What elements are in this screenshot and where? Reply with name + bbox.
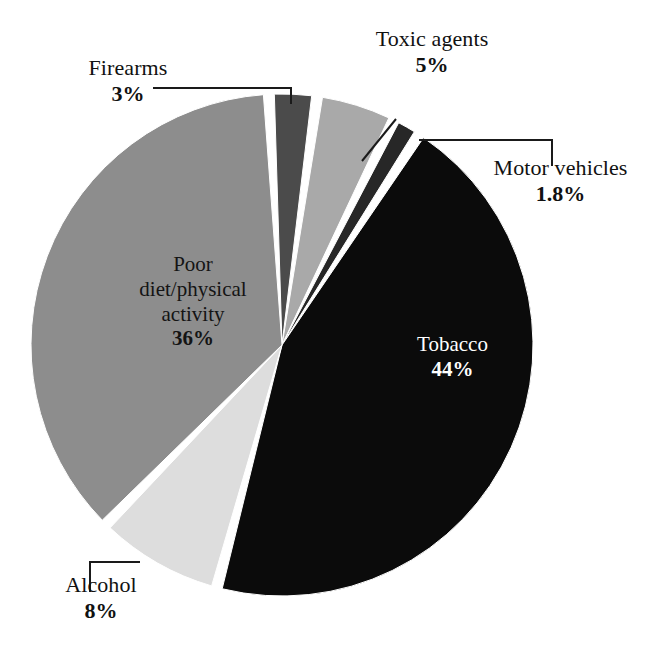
slice-label-tobacco: Tobacco 44% [380,332,525,382]
slice-label-poor-diet: Poor diet/physical activity 36% [88,252,298,351]
slice-label-toxic-agents-pct: 5% [352,52,512,78]
slice-label-firearms-name: Firearms [58,55,198,81]
pie-chart-figure: Firearms 3% Toxic agents 5% Motor vehicl… [0,0,645,656]
slice-label-alcohol-pct: 8% [36,598,166,624]
slice-label-motor-vehicles-name: Motor vehicles [478,155,643,181]
slice-label-poor-diet-line1: Poor [88,252,298,277]
slice-label-motor-vehicles-pct: 1.8% [478,181,643,207]
slice-label-firearms: Firearms 3% [58,55,198,106]
slice-label-poor-diet-line3: activity [88,302,298,327]
slice-label-alcohol: Alcohol 8% [36,572,166,623]
slice-label-tobacco-pct: 44% [380,357,525,382]
slice-label-poor-diet-line2: diet/physical [88,277,298,302]
slice-label-poor-diet-pct: 36% [88,326,298,351]
slice-label-toxic-agents-name: Toxic agents [352,26,512,52]
slice-label-alcohol-name: Alcohol [36,572,166,598]
slice-label-tobacco-name: Tobacco [380,332,525,357]
slice-label-firearms-pct: 3% [58,81,198,107]
slice-label-motor-vehicles: Motor vehicles 1.8% [478,155,643,206]
slice-label-toxic-agents: Toxic agents 5% [352,26,512,77]
